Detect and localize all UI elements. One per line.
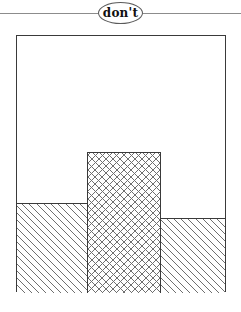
dont-badge: don't (98, 2, 143, 24)
left-hatched-region (17, 203, 87, 293)
dont-badge-label: don't (103, 7, 138, 19)
center-crosshatched-column (87, 152, 161, 293)
right-hatched-region (161, 218, 225, 293)
outer-rectangle (16, 35, 226, 292)
page-root: don't (0, 0, 241, 312)
header-band: don't (0, 0, 241, 30)
